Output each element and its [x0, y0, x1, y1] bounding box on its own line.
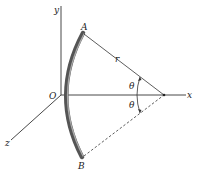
radius-line-b	[84, 95, 164, 156]
origin-label: O	[49, 91, 57, 101]
radius-line-a	[84, 34, 164, 95]
y-axis-label: y	[53, 5, 60, 15]
center-point	[163, 94, 166, 97]
z-axis	[11, 95, 61, 140]
angle-label-upper: θ	[129, 81, 135, 91]
charged-arc-diagram: y x z O A B r θ θ	[0, 0, 197, 171]
radius-label: r	[115, 54, 120, 64]
z-axis-label: z	[4, 138, 10, 148]
x-axis-label: x	[187, 90, 192, 100]
point-b-label: B	[77, 161, 85, 171]
point-a-label: A	[80, 22, 88, 32]
angle-label-lower: θ	[129, 100, 135, 110]
angle-arrow-bottom	[138, 109, 142, 113]
